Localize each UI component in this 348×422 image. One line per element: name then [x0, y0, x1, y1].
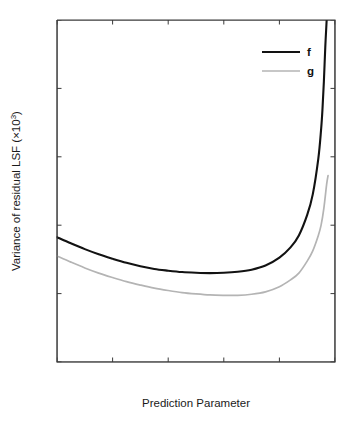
y-axis-label-group: Variance of residual LSF (×103)	[9, 111, 22, 271]
chart-figure: 00.20.40.60.81 24681012 f g Prediction P…	[0, 0, 348, 422]
legend-label-g: g	[307, 65, 314, 77]
y-axis-label-close: )	[10, 111, 22, 115]
y-axis-label-base: Variance of residual LSF (×10	[10, 119, 22, 271]
x-axis-label: Prediction Parameter	[142, 397, 250, 409]
legend-label-f: f	[307, 46, 311, 58]
y-axis-label: Variance of residual LSF (×103)	[9, 111, 22, 271]
